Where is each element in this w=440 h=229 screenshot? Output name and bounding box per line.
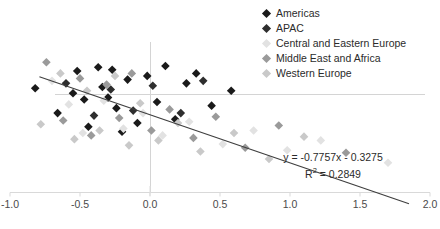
data-point	[112, 104, 121, 113]
data-point	[136, 99, 145, 108]
data-point	[189, 134, 198, 143]
r-squared-value: R2 = 0.2849	[268, 164, 398, 181]
data-point	[230, 129, 239, 138]
x-tick-label: 0.5	[213, 198, 228, 210]
legend-item-middle-east-and-africa[interactable]: Middle East and Africa	[262, 51, 406, 66]
data-point	[53, 109, 62, 118]
data-point	[149, 82, 158, 91]
data-point	[115, 114, 124, 123]
legend-item-apac[interactable]: APAC	[262, 21, 406, 36]
data-point	[196, 147, 205, 156]
trendline	[39, 77, 409, 204]
data-point	[161, 62, 170, 71]
data-point	[59, 116, 68, 125]
scatter-chart: Americas APAC Central and Eastern Europe…	[0, 0, 440, 229]
data-point	[94, 63, 103, 72]
data-point	[317, 136, 326, 145]
r-squared-suffix: = 0.2849	[317, 168, 361, 180]
data-point	[182, 79, 191, 88]
data-point	[65, 100, 74, 109]
legend-marker-icon	[262, 24, 271, 33]
x-tick-label: 2.0	[423, 198, 438, 210]
legend-item-western-europe[interactable]: Western Europe	[262, 66, 406, 81]
data-point	[249, 126, 258, 135]
data-point	[207, 101, 216, 110]
data-point	[147, 126, 156, 135]
legend-marker-icon	[262, 9, 271, 18]
data-point	[56, 69, 65, 78]
data-point	[42, 58, 51, 67]
data-point	[177, 109, 186, 118]
trendline-equation-annotation: y = -0.7757x - 0.3275 R2 = 0.2849	[268, 150, 398, 181]
data-point	[80, 95, 89, 104]
x-tick-label: -1.0	[1, 198, 19, 210]
data-point	[84, 122, 93, 131]
legend-item-central-and-eastern-europe[interactable]: Central and Eastern Europe	[262, 36, 406, 51]
r-squared-prefix: R	[305, 168, 313, 180]
data-point	[73, 67, 82, 76]
data-point	[275, 121, 284, 130]
data-point	[199, 77, 208, 86]
data-point	[69, 89, 78, 98]
data-point	[123, 75, 132, 84]
data-point	[31, 84, 40, 93]
legend-label: Western Europe	[276, 68, 352, 79]
legend-item-americas[interactable]: Americas	[262, 6, 406, 21]
legend-label: Americas	[276, 8, 320, 19]
data-point	[70, 135, 79, 144]
legend-label: Central and Eastern Europe	[276, 38, 406, 49]
data-point	[76, 74, 85, 83]
data-point	[90, 111, 99, 120]
data-point	[300, 132, 309, 141]
data-point	[133, 119, 142, 128]
legend-label: APAC	[276, 23, 304, 34]
x-tick-label: 0.0	[143, 198, 158, 210]
data-point	[125, 141, 134, 150]
legend-marker-icon	[262, 54, 271, 63]
legend-marker-icon	[262, 39, 271, 48]
data-point	[79, 129, 88, 138]
x-tick-label: 1.5	[353, 198, 368, 210]
legend-marker-icon	[262, 69, 271, 78]
regression-equation: y = -0.7757x - 0.3275	[268, 150, 398, 164]
data-point	[227, 86, 236, 95]
data-point	[192, 69, 201, 78]
chart-legend: Americas APAC Central and Eastern Europe…	[262, 6, 406, 81]
x-tick-marks	[10, 186, 430, 197]
x-axis-tick-labels: -1.0-0.50.00.51.01.52.0	[0, 198, 440, 214]
data-point	[128, 69, 137, 78]
data-point	[95, 126, 104, 135]
data-point	[37, 120, 46, 129]
data-point	[153, 98, 162, 107]
legend-label: Middle East and Africa	[276, 53, 380, 64]
data-point	[87, 131, 96, 140]
data-point	[212, 113, 221, 122]
x-tick-label: 1.0	[283, 198, 298, 210]
data-point	[185, 117, 194, 126]
x-tick-label: -0.5	[71, 198, 89, 210]
data-point	[165, 105, 174, 114]
